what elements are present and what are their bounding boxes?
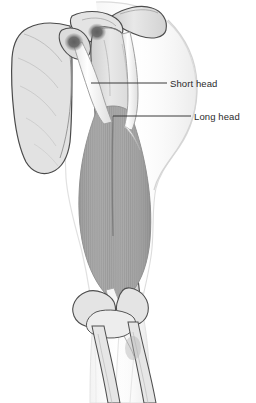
label-short-head: Short head xyxy=(170,79,217,89)
anatomy-figure: Short head Long head xyxy=(0,0,256,403)
label-long-head: Long head xyxy=(194,112,240,122)
leader-lines-layer xyxy=(0,0,256,403)
